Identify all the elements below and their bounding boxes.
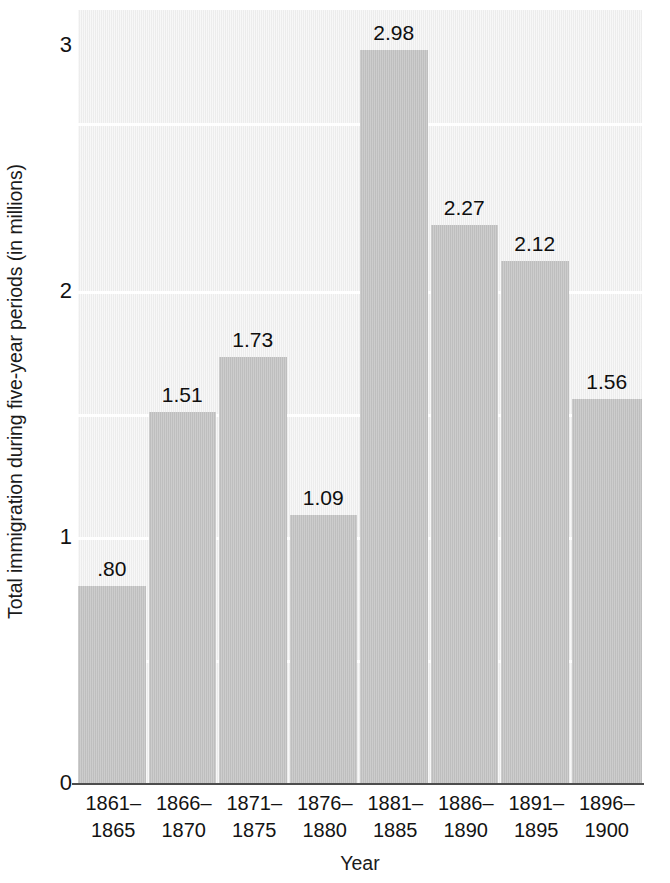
bar-1881-1885[interactable] xyxy=(360,50,428,783)
bar-1866-1870[interactable] xyxy=(149,412,217,783)
x-tick-line1: 1896– xyxy=(572,790,643,817)
x-tick-line1: 1891– xyxy=(501,790,572,817)
value-label-1871-1875: 1.73 xyxy=(218,329,289,350)
bar-slot-1871-1875 xyxy=(219,10,290,783)
immigration-bar-chart: Total immigration during five-year perio… xyxy=(0,0,670,883)
value-label-1896-1900: 1.56 xyxy=(572,371,643,392)
bar-1896-1900[interactable] xyxy=(572,399,643,783)
x-axis-tick-labels: 1861–1865 1866–1870 1871–1875 1876–1880 … xyxy=(78,790,642,852)
x-tick-line2: 1895 xyxy=(501,817,572,844)
y-tick-label-0: 0 xyxy=(32,772,72,794)
x-tick-1861-1865: 1861–1865 xyxy=(78,790,149,852)
x-tick-line1: 1871– xyxy=(219,790,290,817)
bar-slot-1881-1885 xyxy=(360,10,431,783)
bar-slot-1891-1895 xyxy=(501,10,572,783)
bar-1891-1895[interactable] xyxy=(501,261,569,783)
x-tick-line1: 1881– xyxy=(360,790,431,817)
x-tick-line2: 1875 xyxy=(219,817,290,844)
value-label-1891-1895: 2.12 xyxy=(500,233,571,254)
y-axis-title: Total immigration during five-year perio… xyxy=(0,0,30,783)
x-tick-1891-1895: 1891–1895 xyxy=(501,790,572,852)
x-tick-line1: 1876– xyxy=(290,790,361,817)
y-tick-label-3: 3 xyxy=(32,34,72,56)
x-tick-line2: 1890 xyxy=(431,817,502,844)
bar-slot-1896-1900 xyxy=(572,10,643,783)
bar-1886-1890[interactable] xyxy=(431,225,499,783)
value-label-1866-1870: 1.51 xyxy=(147,384,218,405)
bar-1861-1865[interactable] xyxy=(78,586,146,783)
bar-1871-1875[interactable] xyxy=(219,357,287,783)
x-tick-1876-1880: 1876–1880 xyxy=(290,790,361,852)
value-label-1886-1890: 2.27 xyxy=(429,197,500,218)
value-label-1861-1865: .80 xyxy=(77,558,148,579)
x-tick-line1: 1866– xyxy=(149,790,220,817)
x-axis-line xyxy=(72,783,644,785)
bar-1876-1880[interactable] xyxy=(290,515,358,783)
y-tick-label-1: 1 xyxy=(32,526,72,548)
x-tick-1871-1875: 1871–1875 xyxy=(219,790,290,852)
x-tick-line1: 1886– xyxy=(431,790,502,817)
x-tick-line2: 1870 xyxy=(149,817,220,844)
y-tick-label-2: 2 xyxy=(32,280,72,302)
bar-slot-1861-1865 xyxy=(78,10,149,783)
value-label-1881-1885: 2.98 xyxy=(359,22,430,43)
x-tick-1886-1890: 1886–1890 xyxy=(431,790,502,852)
x-tick-line1: 1861– xyxy=(78,790,149,817)
x-tick-line2: 1865 xyxy=(78,817,149,844)
x-tick-1896-1900: 1896–1900 xyxy=(572,790,643,852)
x-tick-line2: 1900 xyxy=(572,817,643,844)
x-tick-line2: 1880 xyxy=(290,817,361,844)
x-tick-1881-1885: 1881–1885 xyxy=(360,790,431,852)
x-tick-line2: 1885 xyxy=(360,817,431,844)
bar-slot-1876-1880 xyxy=(290,10,361,783)
bar-slot-1886-1890 xyxy=(431,10,502,783)
x-tick-1866-1870: 1866–1870 xyxy=(149,790,220,852)
value-label-1876-1880: 1.09 xyxy=(288,487,359,508)
x-axis-title: Year xyxy=(78,852,642,875)
